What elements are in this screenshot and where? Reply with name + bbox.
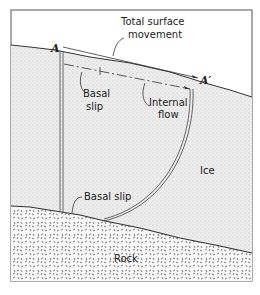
label-movement: movement — [128, 29, 182, 40]
point-label-a-prime: A′ — [199, 74, 212, 87]
glacier-diagram: Total surface movement A A′ Basal slip I… — [0, 0, 260, 295]
label-flow: flow — [158, 109, 179, 120]
point-label-a: A — [50, 42, 60, 55]
label-ice: Ice — [200, 165, 215, 176]
label-basal-slip-bottom: Basal slip — [84, 191, 131, 202]
label-slip-top: slip — [86, 101, 103, 112]
label-total-surface: Total surface — [120, 16, 185, 27]
label-basal-slip-top: Basal — [83, 88, 110, 99]
label-internal: Internal — [149, 97, 188, 108]
label-rock: Rock — [114, 253, 138, 264]
